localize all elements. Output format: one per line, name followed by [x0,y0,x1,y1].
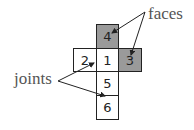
annotation-arrows [0,0,194,130]
faces-arrow-to-4 [112,12,145,33]
cube-net-diagram: 4 2 1 3 5 6 faces joints [0,0,194,130]
faces-arrow-to-3 [131,12,145,55]
joints-arrow-to-upper [58,63,94,81]
joints-arrow-to-lower [58,81,105,96]
